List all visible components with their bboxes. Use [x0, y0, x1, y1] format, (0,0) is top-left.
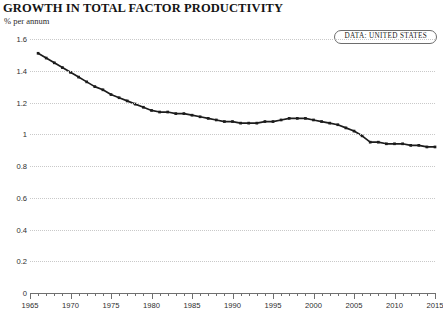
x-tick-mark	[370, 293, 371, 296]
x-tick-mark	[30, 293, 31, 299]
gridline-y-0.4	[30, 230, 435, 231]
x-axis-ticks	[30, 293, 435, 301]
data-point-marker	[255, 122, 258, 125]
x-tick-mark	[71, 293, 72, 299]
x-tick-mark	[103, 293, 104, 296]
x-tick-mark	[160, 293, 161, 296]
x-tick-mark	[127, 293, 128, 296]
x-tick-mark	[208, 293, 209, 296]
data-point-marker	[377, 141, 380, 144]
x-tick-mark	[435, 293, 436, 299]
x-tick-mark	[224, 293, 225, 296]
data-point-marker	[166, 111, 169, 114]
data-point-marker	[417, 144, 420, 147]
x-tick-mark	[168, 293, 169, 296]
data-point-marker	[61, 66, 64, 69]
x-tick-mark	[38, 293, 39, 296]
x-tick-mark	[54, 293, 55, 296]
data-point-marker	[142, 106, 145, 109]
x-tick-mark	[403, 293, 404, 296]
x-tick-label: 1995	[265, 301, 282, 310]
data-point-marker	[37, 52, 40, 55]
x-tick-mark	[46, 293, 47, 296]
gridline-y-1.4	[30, 71, 435, 72]
x-tick-mark	[314, 293, 315, 299]
data-point-marker	[353, 130, 356, 133]
data-point-marker	[434, 146, 437, 149]
x-tick-label: 1990	[224, 301, 241, 310]
y-tick-label: 1	[1, 130, 27, 139]
x-tick-mark	[362, 293, 363, 296]
data-point-marker	[304, 117, 307, 120]
x-axis-labels: 1965197019751980198519901995200020052010…	[0, 301, 443, 315]
x-tick-mark	[111, 293, 112, 299]
x-tick-mark	[305, 293, 306, 296]
data-point-marker	[110, 93, 113, 96]
x-tick-mark	[62, 293, 63, 296]
data-point-marker	[150, 109, 153, 112]
data-point-marker	[239, 122, 242, 125]
data-point-marker	[280, 119, 283, 122]
x-tick-label: 1985	[184, 301, 201, 310]
y-tick-label: 0.2	[1, 257, 27, 266]
y-tick-label: 1.6	[1, 35, 27, 44]
x-tick-mark	[395, 293, 396, 299]
gridline-y-1	[30, 134, 435, 135]
x-tick-mark	[330, 293, 331, 296]
x-tick-mark	[249, 293, 250, 296]
data-point-marker	[118, 96, 121, 99]
x-tick-label: 2015	[427, 301, 443, 310]
gridline-y-1.6	[30, 39, 435, 40]
data-point-marker	[223, 120, 226, 123]
data-point-marker	[93, 85, 96, 88]
data-point-marker	[296, 117, 299, 120]
data-point-marker	[158, 111, 161, 114]
x-tick-mark	[265, 293, 266, 296]
y-axis-labels: 00.20.40.60.811.21.41.6	[0, 39, 27, 293]
data-point-marker	[174, 112, 177, 115]
data-point-marker	[53, 61, 56, 64]
x-tick-mark	[257, 293, 258, 296]
x-tick-mark	[354, 293, 355, 299]
x-tick-label: 1975	[103, 301, 120, 310]
y-tick-label: 0.8	[1, 162, 27, 171]
x-tick-label: 2010	[386, 301, 403, 310]
x-tick-mark	[322, 293, 323, 296]
plot-area	[30, 39, 435, 293]
x-tick-label: 2005	[346, 301, 363, 310]
x-tick-mark	[281, 293, 282, 296]
x-tick-mark	[378, 293, 379, 296]
x-tick-mark	[273, 293, 274, 299]
data-point-marker	[393, 142, 396, 145]
x-tick-mark	[143, 293, 144, 296]
data-point-marker	[85, 81, 88, 84]
x-tick-mark	[192, 293, 193, 299]
data-point-marker	[409, 144, 412, 147]
data-point-marker	[102, 88, 105, 91]
x-tick-mark	[346, 293, 347, 296]
data-point-marker	[199, 115, 202, 118]
x-tick-mark	[79, 293, 80, 296]
x-tick-mark	[87, 293, 88, 296]
data-point-marker	[77, 76, 80, 79]
data-point-marker	[183, 112, 186, 115]
x-tick-label: 1965	[22, 301, 39, 310]
data-point-marker	[320, 120, 323, 123]
x-tick-label: 1980	[143, 301, 160, 310]
x-tick-label: 2000	[305, 301, 322, 310]
y-tick-label: 0.6	[1, 193, 27, 202]
x-tick-mark	[119, 293, 120, 296]
x-tick-mark	[176, 293, 177, 296]
data-point-marker	[385, 142, 388, 145]
data-point-marker	[45, 57, 48, 60]
data-point-marker	[426, 146, 429, 149]
x-tick-mark	[152, 293, 153, 299]
data-point-marker	[191, 114, 194, 117]
x-tick-mark	[386, 293, 387, 296]
x-tick-mark	[184, 293, 185, 296]
y-tick-label: 0	[1, 289, 27, 298]
x-tick-mark	[95, 293, 96, 296]
chart-subtitle: % per annum	[4, 16, 49, 26]
data-point-marker	[264, 120, 267, 123]
x-tick-mark	[241, 293, 242, 296]
